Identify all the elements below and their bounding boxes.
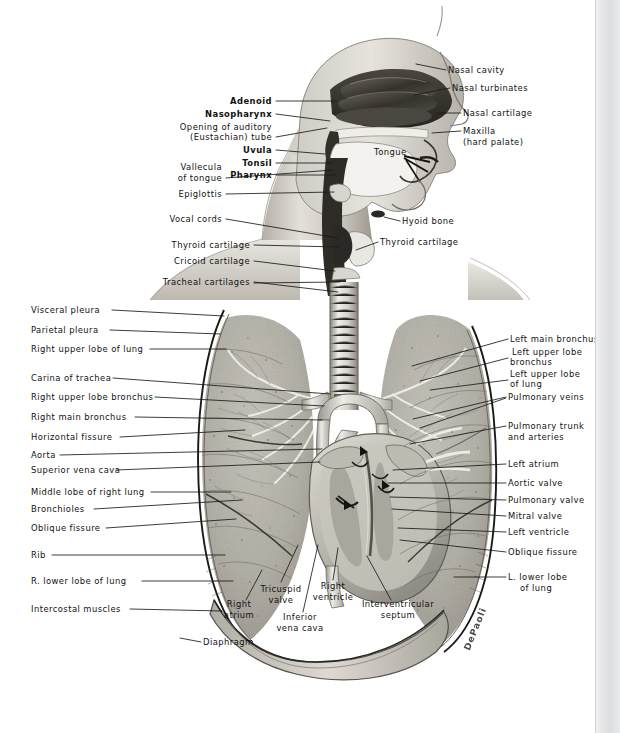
label-tongue: Tongue — [374, 147, 407, 158]
label-interventricular-1: Interventricular — [338, 599, 458, 610]
leader-line — [420, 358, 508, 381]
leader-line — [410, 426, 506, 444]
leader-line — [276, 150, 325, 154]
label-visceral-pleura: Visceral pleura — [31, 305, 100, 316]
label-nasal-cavity: Nasal cavity — [448, 65, 505, 76]
label-diaphragm: Diaphragm — [203, 637, 254, 648]
leader-line — [413, 397, 506, 419]
label-left-upper-lobe-bronchus-2: bronchus — [510, 357, 552, 368]
leader-line — [398, 528, 506, 532]
leader-line — [420, 398, 506, 428]
label-l-lower-lobe-1: L. lower lobe — [508, 572, 567, 583]
label-horizontal-fissure: Horizontal fissure — [31, 432, 112, 443]
label-right-ventricle-1: Right — [273, 581, 393, 592]
leader-line — [356, 242, 378, 250]
leader-line — [416, 64, 446, 70]
label-vallecula-2: of tongue — [178, 173, 222, 184]
leader-line — [254, 282, 338, 292]
leader-line — [384, 217, 400, 221]
label-left-ventricle: Left ventricle — [508, 527, 569, 538]
leader-line — [112, 310, 224, 316]
label-nasal-turbinates: Nasal turbinates — [452, 83, 528, 94]
label-vocal-cords: Vocal cords — [169, 214, 222, 225]
label-superior-vena-cava: Superior vena cava — [31, 465, 120, 476]
label-right-upper-lobe-bronchus: Right upper lobe bronchus — [31, 392, 153, 403]
label-epiglottis: Epiglottis — [179, 189, 222, 200]
leader-line — [276, 114, 330, 121]
label-cricoid-cartilage: Cricoid cartilage — [174, 256, 250, 267]
label-parietal-pleura: Parietal pleura — [31, 325, 99, 336]
label-maxilla-1: Maxilla — [463, 126, 496, 137]
leader-line — [180, 638, 201, 642]
leader-line — [281, 545, 298, 582]
label-interventricular-2: septum — [338, 610, 458, 621]
label-pulmonary-valve: Pulmonary valve — [508, 495, 585, 506]
label-tonsil: Tonsil — [242, 158, 272, 169]
label-adenoid: Adenoid — [230, 96, 272, 107]
page-gutter-strip — [595, 0, 620, 733]
leader-line — [110, 330, 220, 334]
label-uvula: Uvula — [243, 145, 272, 156]
label-pulmonary-trunk-2: and arteries — [508, 432, 564, 443]
label-rib: Rib — [31, 550, 46, 561]
label-carina-of-trachea: Carina of trachea — [31, 373, 111, 384]
label-eustachian-1: Opening of auditory — [180, 122, 272, 133]
leader-line — [120, 430, 245, 437]
label-right-upper-lobe: Right upper lobe of lung — [31, 344, 143, 355]
leader-line — [106, 519, 236, 528]
label-tracheal-cartilages: Tracheal cartilages — [163, 277, 250, 288]
label-right-main-bronchus: Right main bronchus — [31, 412, 126, 423]
leader-line — [400, 540, 506, 552]
leader-line — [414, 88, 450, 95]
leader-line — [94, 500, 242, 509]
leader-line — [254, 282, 340, 283]
label-inferior-vena-cava-2: vena cava — [240, 623, 360, 634]
leader-line — [60, 449, 322, 455]
leader-line — [226, 219, 338, 238]
label-thyroid-cartilage-l: Thyroid cartilage — [172, 240, 250, 251]
label-r-lower-lobe-of-lung: R. lower lobe of lung — [31, 576, 126, 587]
leader-line — [135, 417, 322, 420]
label-bronchioles: Bronchioles — [31, 504, 85, 515]
label-pulmonary-veins: Pulmonary veins — [508, 392, 584, 403]
label-pharynx: Pharynx — [230, 170, 272, 181]
leader-line — [432, 131, 461, 133]
leader-line — [333, 548, 338, 580]
label-mitral-valve: Mitral valve — [508, 511, 562, 522]
leader-line — [155, 397, 324, 406]
label-pulmonary-trunk-1: Pulmonary trunk — [508, 421, 584, 432]
leader-line — [254, 261, 335, 271]
label-left-upper-lobe-lung-1: Left upper lobe — [510, 369, 580, 380]
label-hyoid-bone: Hyoid bone — [402, 216, 454, 227]
leader-line — [392, 509, 506, 516]
label-aortic-valve: Aortic valve — [508, 478, 563, 489]
leader-line — [430, 380, 508, 390]
label-left-upper-lobe-bronchus-1: Left upper lobe — [512, 347, 582, 358]
leader-line — [226, 192, 334, 194]
label-nasopharynx: Nasopharynx — [205, 109, 272, 120]
label-maxilla-2: (hard palate) — [463, 137, 523, 148]
label-middle-lobe-right-lung: Middle lobe of right lung — [31, 487, 145, 498]
label-thyroid-cartilage-r: Thyroid cartilage — [380, 237, 458, 248]
label-aorta: Aorta — [31, 450, 56, 461]
label-left-atrium: Left atrium — [508, 459, 559, 470]
leader-line — [276, 128, 327, 137]
label-oblique-fissure-right: Oblique fissure — [508, 547, 577, 558]
leader-line — [116, 462, 320, 470]
leader-line — [393, 464, 506, 470]
leader-line — [254, 245, 338, 247]
label-nasal-cartilage: Nasal cartilage — [463, 108, 532, 119]
label-oblique-fissure-left: Oblique fissure — [31, 523, 100, 534]
label-eustachian-2: (Eustachian) tube — [190, 132, 272, 143]
leader-line — [390, 497, 506, 500]
label-left-main-bronchus: Left main bronchus — [510, 334, 599, 345]
label-left-upper-lobe-lung-2: of lung — [510, 379, 542, 390]
label-l-lower-lobe-2: of lung — [520, 583, 552, 594]
label-vallecula-1: Vallecula — [181, 162, 222, 173]
label-intercostal-muscles: Intercostal muscles — [31, 604, 121, 615]
figure-canvas: AdenoidNasopharynxOpening of auditory(Eu… — [0, 0, 620, 733]
